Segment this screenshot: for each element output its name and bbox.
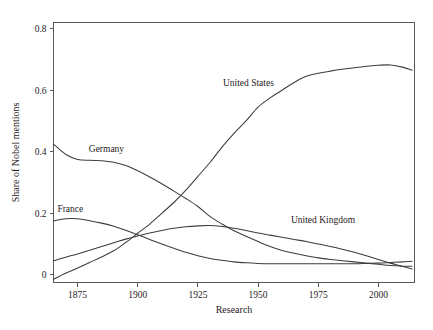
series-annotation-group: United StatesGermanyFranceUnited Kingdom	[57, 78, 355, 226]
tick-label-group: 00.20.40.60.8187519001925195019752000	[35, 24, 389, 299]
y-tick-label: 0.8	[35, 24, 47, 34]
axes-group	[50, 23, 415, 287]
series-group	[54, 65, 413, 280]
series-label-united-kingdom: United Kingdom	[291, 215, 356, 225]
series-label-united-states: United States	[223, 78, 274, 88]
x-tick-label: 1900	[128, 290, 147, 300]
series-line-germany	[54, 144, 413, 266]
series-label-france: France	[57, 204, 83, 214]
y-tick-label: 0.6	[35, 86, 47, 96]
y-axis-title: Share of Nobel mentions	[10, 103, 21, 203]
line-chart-canvas: 00.20.40.60.8187519001925195019752000 Un…	[0, 0, 433, 330]
x-tick-label: 1875	[68, 290, 87, 300]
x-axis-title: Research	[216, 304, 253, 315]
chart-figure: 00.20.40.60.8187519001925195019752000 Un…	[0, 0, 433, 330]
x-tick-label: 1950	[249, 290, 268, 300]
y-tick-label: 0.4	[35, 147, 47, 157]
series-line-france	[54, 219, 413, 264]
series-line-united-states	[54, 65, 413, 280]
x-tick-label: 2000	[369, 290, 388, 300]
series-label-germany: Germany	[89, 144, 125, 154]
y-tick-label: 0	[42, 270, 47, 280]
x-tick-label: 1925	[188, 290, 207, 300]
x-tick-label: 1975	[309, 290, 328, 300]
y-tick-label: 0.2	[35, 209, 47, 219]
